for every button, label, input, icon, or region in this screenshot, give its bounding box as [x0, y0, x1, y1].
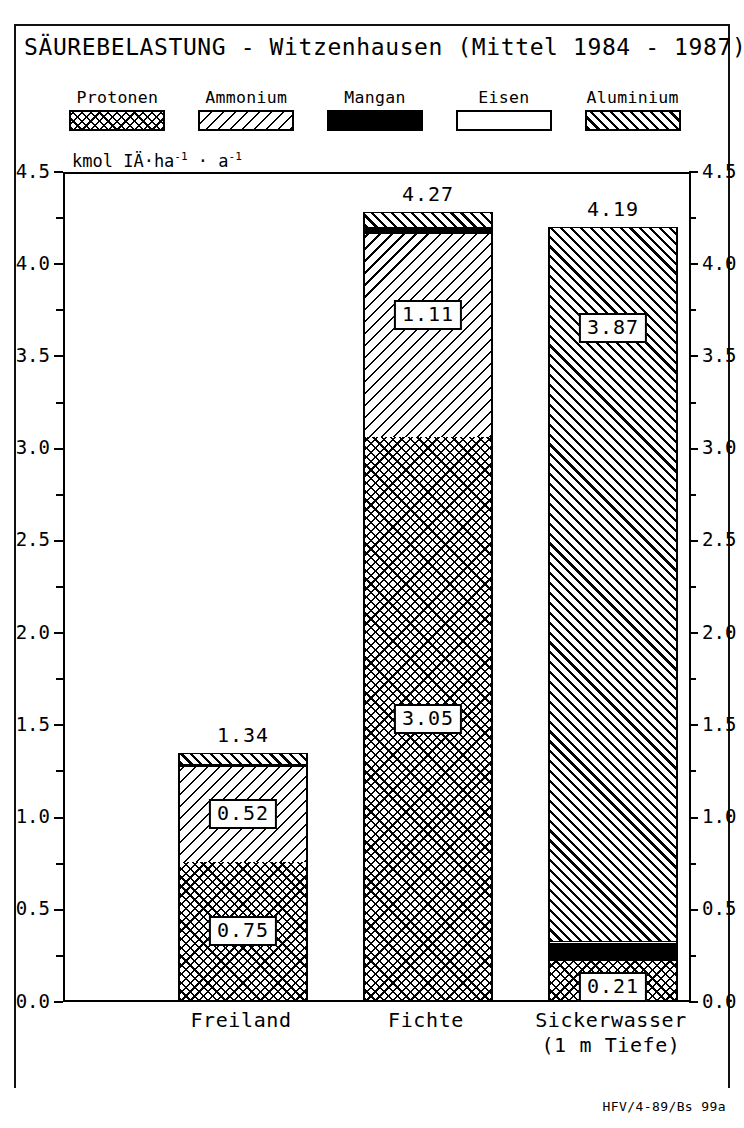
- legend-item-label: Mangan: [344, 88, 405, 107]
- y-tick-label: 1.0: [16, 807, 50, 826]
- y-tick-label: 0.5: [702, 899, 736, 918]
- legend-item-label: Ammonium: [205, 88, 287, 107]
- chart-legend: ProtonenAmmoniumManganEisenAluminium: [60, 88, 690, 138]
- y-tick-label: 0.5: [16, 899, 50, 918]
- y-tick-label: 2.0: [16, 623, 50, 642]
- y-tick-label: 3.5: [16, 346, 50, 365]
- y-tick-label: 4.0: [16, 254, 50, 273]
- plot-area: 0.750.521.343.051.114.270.213.874.19: [63, 172, 691, 1002]
- x-axis-label-fichte: Fichte: [388, 1008, 464, 1033]
- y-tick-label: 2.5: [16, 530, 50, 549]
- y-tick-label: 4.5: [16, 162, 50, 181]
- bar-segment-freiland-mangan[interactable]: [178, 764, 308, 766]
- bar-segment-fichte-protonen[interactable]: 3.05: [363, 437, 493, 1000]
- y-tick-label: 4.5: [702, 162, 736, 181]
- bar-segment-freiland-aluminium[interactable]: [178, 753, 308, 764]
- segment-value-label: 0.75: [209, 916, 277, 946]
- legend-swatch-aluminium: [585, 110, 681, 131]
- y-tick-mark: [56, 402, 63, 404]
- x-axis-label-text: Sickerwasser: [535, 1008, 687, 1033]
- y-tick-mark: [56, 955, 63, 957]
- legend-item-label: Aluminium: [587, 88, 679, 107]
- x-axis-label-freiland: Freiland: [190, 1008, 291, 1033]
- bar-sickerwasser[interactable]: 0.213.87: [548, 227, 678, 1000]
- bar-segment-freiland-protonen[interactable]: 0.75: [178, 862, 308, 1000]
- legend-item-label: Eisen: [478, 88, 529, 107]
- bar-segment-sickerwasser-aluminium[interactable]: 3.87: [548, 227, 678, 941]
- segment-value-label: 3.05: [394, 704, 462, 734]
- y-tick-label: 3.0: [702, 438, 736, 457]
- y-tick-mark: [54, 448, 63, 450]
- y-tick-label: 1.5: [16, 715, 50, 734]
- x-axis-label-text: Freiland: [190, 1008, 291, 1033]
- y-tick-mark: [56, 678, 63, 680]
- y-tick-label: 1.5: [702, 715, 736, 734]
- y-tick-mark: [54, 1001, 63, 1003]
- y-tick-mark: [54, 909, 63, 911]
- x-axis-label-sickerwasser: Sickerwasser(1 m Tiefe): [535, 1008, 687, 1058]
- bar-segment-fichte-aluminium[interactable]: [363, 212, 493, 227]
- footer-code: HFV/4-89/Bs 99a: [603, 1099, 726, 1114]
- y-tick-mark: [54, 263, 63, 265]
- bar-segment-sickerwasser-mangan[interactable]: [548, 943, 678, 961]
- y-tick-label: 1.0: [702, 807, 736, 826]
- y-tick-mark: [54, 171, 63, 173]
- bar-segment-sickerwasser-protonen[interactable]: 0.21: [548, 961, 678, 1000]
- y-tick-label: 3.5: [702, 346, 736, 365]
- legend-item-mangan: Mangan: [318, 88, 433, 131]
- y-tick-label: 3.0: [16, 438, 50, 457]
- legend-swatch-eisen: [456, 110, 552, 131]
- y-tick-label: 0.0: [702, 992, 736, 1011]
- bar-freiland[interactable]: 0.750.52: [178, 753, 308, 1000]
- y-tick-mark: [54, 355, 63, 357]
- legend-swatch-protonen: [69, 110, 165, 131]
- bar-segment-fichte-ammonium[interactable]: 1.11: [363, 233, 493, 438]
- y-tick-label: 2.5: [702, 530, 736, 549]
- y-tick-mark: [56, 863, 63, 865]
- segment-value-label: 1.11: [394, 300, 462, 330]
- y-tick-mark: [56, 586, 63, 588]
- legend-item-protonen: Protonen: [60, 88, 175, 131]
- y-tick-mark: [56, 494, 63, 496]
- segment-value-label: 3.87: [579, 313, 647, 343]
- y-tick-label: 2.0: [702, 623, 736, 642]
- bar-segment-fichte-mangan[interactable]: [363, 227, 493, 233]
- legend-swatch-ammonium: [198, 110, 294, 131]
- legend-item-ammonium: Ammonium: [189, 88, 304, 131]
- segment-value-label: 0.21: [579, 972, 647, 1002]
- bar-total-label-freiland: 1.34: [217, 723, 269, 747]
- legend-swatch-mangan: [327, 110, 423, 131]
- bar-total-label-fichte: 4.27: [402, 182, 454, 206]
- y-tick-mark: [54, 540, 63, 542]
- legend-item-aluminium: Aluminium: [575, 88, 690, 131]
- y-tick-mark: [54, 817, 63, 819]
- y-tick-mark: [56, 217, 63, 219]
- y-tick-label: 4.0: [702, 254, 736, 273]
- y-tick-mark: [56, 309, 63, 311]
- y-tick-mark: [54, 632, 63, 634]
- y-axis-right: 0.00.51.01.52.02.53.03.54.04.5: [689, 172, 744, 1002]
- x-axis-label-text: Fichte: [388, 1008, 464, 1033]
- y-axis-unit-label: kmol IÄ·ha-1 · a-1: [72, 150, 242, 171]
- bar-segment-sickerwasser-eisen[interactable]: [548, 941, 678, 943]
- bar-fichte[interactable]: 3.051.11: [363, 212, 493, 1000]
- bar-segment-freiland-ammonium[interactable]: 0.52: [178, 766, 308, 862]
- bar-total-label-sickerwasser: 4.19: [587, 197, 639, 221]
- segment-value-label: 0.52: [209, 799, 277, 829]
- legend-item-eisen: Eisen: [446, 88, 561, 131]
- legend-item-label: Protonen: [76, 88, 158, 107]
- page-title: SÄUREBELASTUNG - Witzenhausen (Mittel 19…: [24, 34, 724, 60]
- y-tick-label: 0.0: [16, 992, 50, 1011]
- y-axis-left: 0.00.51.01.52.02.53.03.54.04.5: [3, 172, 63, 1002]
- x-axis-sublabel-text: (1 m Tiefe): [535, 1033, 687, 1058]
- y-tick-mark: [56, 770, 63, 772]
- y-tick-mark: [54, 724, 63, 726]
